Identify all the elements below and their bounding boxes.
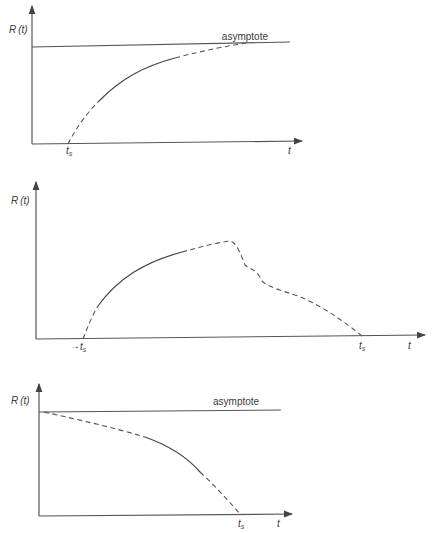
ts-marker-label-end: ts [359, 340, 366, 352]
curve-dashed-start [83, 306, 98, 339]
curve-dashed-start [44, 412, 145, 437]
x-axis [32, 141, 302, 144]
ts-marker-label: ts [238, 518, 245, 530]
curve-dashed-end [182, 241, 362, 336]
x-axis-label: t [288, 145, 292, 156]
y-axis-label: R(t) [11, 395, 30, 406]
panel-1: asymptote R(t) t ts [9, 6, 302, 157]
x-axis-label: t [408, 340, 412, 351]
asymptote-line [39, 410, 281, 412]
curve-solid [100, 58, 175, 100]
curve-solid [98, 252, 182, 306]
panel-2: R(t) t → ts ts [11, 182, 425, 353]
curve-dashed-end [175, 43, 246, 58]
y-axis-label: R(t) [9, 24, 28, 35]
ts-marker-label-start: ts [80, 341, 87, 353]
y-axis-label: R(t) [11, 195, 30, 206]
ts-arrow-icon: → [70, 340, 80, 351]
x-axis [39, 514, 292, 516]
asymptote-label: asymptote [213, 396, 260, 407]
asymptote-label: asymptote [222, 31, 269, 42]
x-axis [36, 335, 425, 339]
curve-dashed-start [68, 100, 100, 144]
curve-solid [145, 437, 200, 472]
curve-dashed-end [200, 472, 241, 515]
panel-3: asymptote R(t) t ts [11, 384, 292, 530]
asymptote-line [32, 42, 290, 47]
reliability-growth-diagrams: asymptote R(t) t ts R(t) t → ts ts asymp… [0, 0, 432, 533]
x-axis-label: t [277, 518, 281, 529]
ts-marker-label: ts [66, 145, 73, 157]
